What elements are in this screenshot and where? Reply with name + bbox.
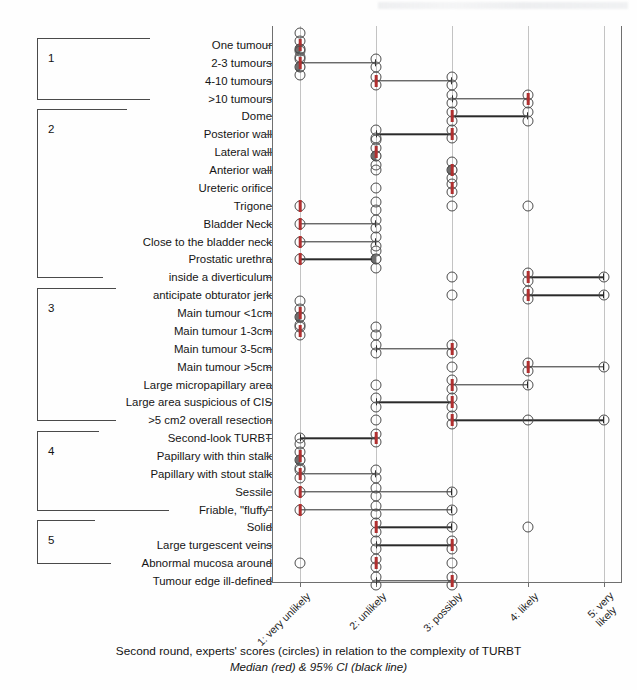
median-marker xyxy=(299,450,302,462)
bracket-arm-bottom xyxy=(37,510,169,511)
group-number-5: 5 xyxy=(48,534,54,546)
expert-score-circle xyxy=(447,272,458,283)
median-marker xyxy=(299,504,302,516)
group-bracket-4 xyxy=(37,431,209,510)
expert-score-circle xyxy=(599,415,610,426)
bracket-spine xyxy=(37,288,38,421)
group-number-2: 2 xyxy=(48,123,54,135)
caption-line-2: Median (red) & 95% CI (black line) xyxy=(0,659,637,674)
median-marker xyxy=(299,200,302,212)
expert-score-circle xyxy=(523,115,534,126)
confidence-interval-line xyxy=(452,116,528,117)
expert-score-circle xyxy=(447,200,458,211)
caption-line-1: Second round, experts' scores (circles) … xyxy=(0,644,637,659)
gridline-5 xyxy=(604,26,605,582)
median-marker xyxy=(299,307,302,319)
bracket-arm-top xyxy=(37,288,116,289)
x-tick-label-2: 2: unlikely xyxy=(347,590,389,632)
bracket-arm-top xyxy=(37,38,150,39)
median-marker xyxy=(451,575,454,587)
group-bracket-1 xyxy=(37,38,209,100)
confidence-interval-line xyxy=(452,384,528,385)
confidence-interval-line xyxy=(528,294,604,295)
bracket-arm-bottom xyxy=(37,277,103,278)
bracket-arm-bottom xyxy=(37,99,150,100)
confidence-interval-line xyxy=(300,437,376,438)
bracket-arm-bottom xyxy=(37,563,111,564)
confidence-interval-line xyxy=(376,402,452,403)
confidence-interval-line xyxy=(300,223,376,224)
expert-score-circle xyxy=(371,401,382,412)
median-marker xyxy=(451,182,454,194)
expert-score-circle xyxy=(447,522,458,533)
median-marker xyxy=(451,110,454,122)
median-marker xyxy=(451,343,454,355)
row-label: Tumour edge ill-defined xyxy=(32,575,272,587)
expert-score-circle xyxy=(599,290,610,301)
median-marker xyxy=(375,75,378,87)
bracket-arm-top xyxy=(37,109,127,110)
expert-score-circle xyxy=(371,415,382,426)
median-marker xyxy=(451,128,454,140)
confidence-interval-line xyxy=(452,98,528,99)
scatter-plot-area xyxy=(272,26,637,586)
group-number-1: 1 xyxy=(48,52,54,64)
x-tick-label-3: 3: possibly xyxy=(421,590,465,634)
expert-score-circle xyxy=(371,182,382,193)
confidence-interval-line xyxy=(528,277,604,278)
median-marker xyxy=(375,432,378,444)
confidence-interval-line xyxy=(528,366,604,367)
group-bracket-5 xyxy=(37,520,209,564)
group-bracket-2 xyxy=(37,109,209,278)
confidence-interval-line xyxy=(376,134,452,135)
expert-score-circle xyxy=(371,165,382,176)
bracket-arm-bottom xyxy=(37,420,116,421)
expert-score-circle xyxy=(599,272,610,283)
bracket-arm-top xyxy=(37,520,95,521)
scan-artifact xyxy=(378,2,628,9)
plot-right-frame xyxy=(621,26,622,582)
median-marker xyxy=(299,486,302,498)
x-tick-label-4: 4: likely xyxy=(507,590,540,623)
expert-score-circle xyxy=(371,379,382,390)
bracket-spine xyxy=(37,431,38,510)
expert-score-circle xyxy=(523,379,534,390)
median-marker xyxy=(451,539,454,551)
expert-score-circle xyxy=(523,415,534,426)
median-marker xyxy=(451,379,454,391)
median-marker xyxy=(299,218,302,230)
median-marker xyxy=(527,93,530,105)
confidence-interval-line xyxy=(300,259,376,260)
expert-score-circle xyxy=(371,262,382,273)
confidence-interval-line xyxy=(300,473,376,474)
expert-score-circle xyxy=(447,558,458,569)
figure-caption: Second round, experts' scores (circles) … xyxy=(0,644,637,674)
confidence-interval-line xyxy=(300,241,376,242)
median-marker xyxy=(375,557,378,569)
confidence-interval-line xyxy=(300,62,376,63)
median-marker xyxy=(451,164,454,176)
median-marker xyxy=(527,289,530,301)
expert-score-circle xyxy=(295,558,306,569)
median-marker xyxy=(299,57,302,69)
bracket-spine xyxy=(37,520,38,564)
x-axis-tick-labels: 1: very unlikely2: unlikely3: possibly4:… xyxy=(272,590,637,652)
median-marker xyxy=(299,468,302,480)
expert-score-circle xyxy=(447,504,458,515)
figure-stage: One tumour2-3 tumours4-10 tumours>10 tum… xyxy=(0,0,637,690)
confidence-interval-line xyxy=(376,545,452,546)
group-bracket-3 xyxy=(37,288,209,421)
confidence-interval-line xyxy=(376,80,452,81)
median-marker xyxy=(299,253,302,265)
median-marker xyxy=(527,271,530,283)
median-marker xyxy=(375,146,378,158)
confidence-interval-line xyxy=(376,580,452,581)
bracket-spine xyxy=(37,109,38,278)
confidence-interval-line xyxy=(376,348,452,349)
median-marker xyxy=(299,325,302,337)
expert-score-circle xyxy=(447,486,458,497)
median-marker xyxy=(451,396,454,408)
median-marker xyxy=(375,521,378,533)
expert-score-circle xyxy=(295,70,306,81)
expert-score-circle xyxy=(447,290,458,301)
